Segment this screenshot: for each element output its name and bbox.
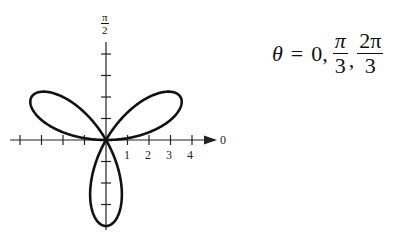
theta-symbol: θ bbox=[272, 41, 283, 67]
axis-arrow-icon bbox=[204, 136, 217, 145]
two-label: 2 bbox=[100, 24, 110, 36]
fraction-denominator: 3 bbox=[363, 54, 378, 77]
tick-label-2: 2 bbox=[145, 148, 151, 162]
fraction-denominator: 3 bbox=[333, 54, 348, 77]
comma: , bbox=[349, 47, 355, 73]
zero-value: 0, bbox=[311, 41, 328, 67]
theta-equation: θ = 0, π 3 , 2π 3 bbox=[272, 30, 384, 77]
tick-label-1: 1 bbox=[124, 148, 130, 162]
tick-label-3: 3 bbox=[166, 148, 172, 162]
polar-axis-label: 0 bbox=[220, 133, 226, 147]
equals-sign: = bbox=[291, 41, 303, 67]
tick-label-4: 4 bbox=[187, 148, 193, 162]
pi-label: π bbox=[101, 12, 109, 24]
fraction-2pi-over-3: 2π 3 bbox=[357, 30, 383, 77]
vertical-axis-label: π 2 bbox=[99, 12, 111, 36]
fraction-numerator: 2π bbox=[357, 30, 383, 54]
fraction-numerator: π bbox=[333, 30, 348, 54]
polar-plot: 1 2 3 4 0 bbox=[0, 0, 240, 236]
fraction-pi-over-3: π 3 bbox=[333, 30, 348, 77]
